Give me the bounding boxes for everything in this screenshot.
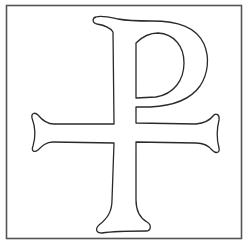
figure-canvas: Chi-Rho style cross (Rho-cross / Staurog…: [0, 0, 250, 246]
rho-cross-drawing: [0, 0, 250, 246]
rho-bowl-counter: [136, 33, 184, 98]
rho-cross-outline: [32, 16, 219, 233]
